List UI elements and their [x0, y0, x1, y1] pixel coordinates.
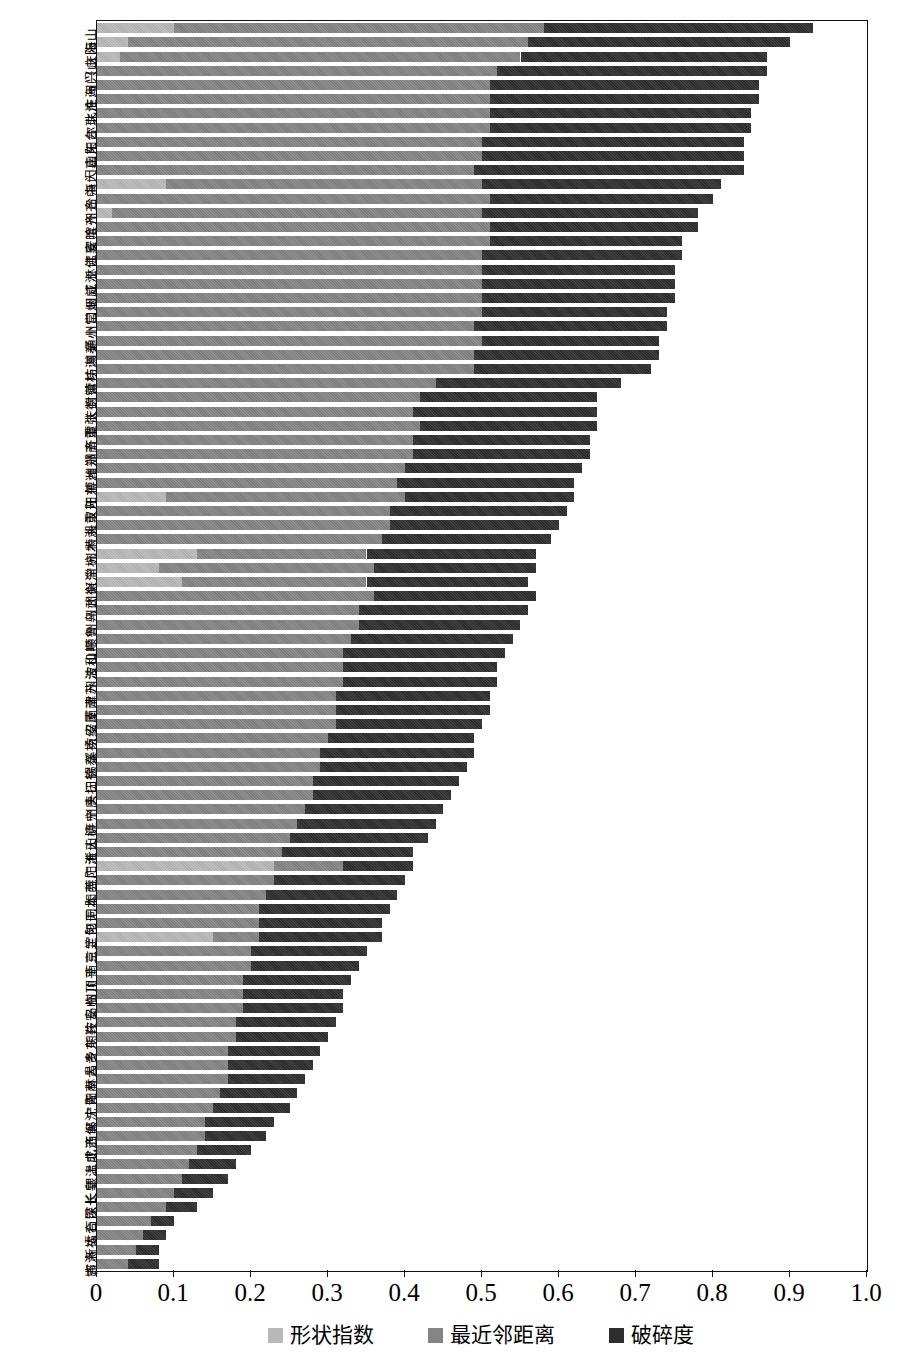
bar-segment-nnd: [97, 634, 351, 644]
bar-segment-frag: [313, 790, 452, 800]
bar-row: [97, 66, 867, 76]
bar-row: [97, 890, 867, 900]
bar-segment-frag: [259, 904, 390, 914]
bar-row: [97, 733, 867, 743]
bar-segment-frag: [528, 37, 790, 47]
x-axis-tick-label: 0.1: [157, 1279, 188, 1307]
bar-row: [97, 677, 867, 687]
bar-segment-nnd: [97, 762, 320, 772]
bar-segment-nnd: [97, 1046, 228, 1056]
bar-segment-frag: [328, 733, 474, 743]
bar-row: [97, 776, 867, 786]
bar-segment-nnd: [97, 250, 482, 260]
bar-segment-frag: [243, 1003, 343, 1013]
x-axis-tick-label: 0.7: [619, 1279, 650, 1307]
legend-item[interactable]: 破碎度: [609, 1324, 694, 1346]
bar-row: [97, 1259, 867, 1269]
bar-row: [97, 1017, 867, 1027]
bar-row: [97, 648, 867, 658]
bar-segment-nnd: [97, 350, 474, 360]
bar-segment-nnd: [97, 1188, 174, 1198]
bar-row: [97, 165, 867, 175]
x-axis-tick-label: 0: [90, 1279, 103, 1307]
bar-segment-frag: [405, 463, 582, 473]
legend-item[interactable]: 最近邻距离: [428, 1324, 555, 1346]
bar-segment-frag: [490, 194, 713, 204]
bar-segment-nnd: [97, 137, 482, 147]
bar-segment-frag: [482, 179, 721, 189]
bar-row: [97, 137, 867, 147]
bar-segment-frag: [220, 1088, 297, 1098]
bar-segment-nnd: [97, 1245, 136, 1255]
bar-segment-nnd: [97, 890, 266, 900]
legend-item[interactable]: 形状指数: [268, 1324, 374, 1346]
x-axis-tick-label: 0.2: [234, 1279, 265, 1307]
bar-row: [97, 463, 867, 473]
bar-segment-nnd: [97, 605, 359, 615]
y-axis-labels: 海山庆阳兴山州门庄海北淮尔珠阳台山东门嘉海大台中州齐滨齐安哈江襄林佛江江州威口烟…: [0, 20, 96, 1270]
bar-segment-nnd: [97, 804, 305, 814]
bar-row: [97, 492, 867, 502]
bar-segment-shape: [97, 932, 213, 942]
bar-segment-nnd: [97, 918, 259, 928]
bar-segment-nnd: [97, 364, 474, 374]
bar-segment-nnd: [97, 1103, 213, 1113]
bar-segment-nnd: [97, 392, 420, 402]
bar-segment-nnd: [274, 861, 343, 871]
bar-segment-frag: [351, 634, 513, 644]
bar-row: [97, 748, 867, 758]
bar-row: [97, 336, 867, 346]
bar-segment-nnd: [97, 407, 413, 417]
bar-row: [97, 222, 867, 232]
bar-segment-frag: [390, 520, 559, 530]
bar-row: [97, 534, 867, 544]
bar-row: [97, 1046, 867, 1056]
bars-layer: [97, 21, 867, 1271]
bar-segment-nnd: [97, 506, 390, 516]
bar-segment-nnd: [97, 378, 436, 388]
bar-segment-frag: [189, 1159, 235, 1169]
bar-segment-nnd: [97, 790, 313, 800]
bar-row: [97, 932, 867, 942]
bar-row: [97, 620, 867, 630]
bar-row: [97, 108, 867, 118]
bar-row: [97, 1074, 867, 1084]
bar-segment-frag: [251, 946, 367, 956]
bar-row: [97, 1003, 867, 1013]
bar-segment-frag: [490, 222, 698, 232]
bar-segment-nnd: [97, 961, 251, 971]
bar-row: [97, 1216, 867, 1226]
bar-segment-nnd: [97, 336, 482, 346]
bar-segment-nnd: [97, 1159, 189, 1169]
x-axis-tick: [558, 1270, 559, 1277]
bar-row: [97, 691, 867, 701]
bar-row: [97, 719, 867, 729]
bar-segment-frag: [390, 506, 567, 516]
bar-segment-nnd: [97, 1216, 151, 1226]
bar-segment-frag: [166, 1202, 197, 1212]
bar-row: [97, 1202, 867, 1212]
x-axis-tick-label: 0.4: [388, 1279, 419, 1307]
bar-row: [97, 279, 867, 289]
bar-row: [97, 1174, 867, 1184]
bar-segment-frag: [367, 577, 529, 587]
bar-segment-frag: [228, 1046, 320, 1056]
bar-segment-nnd: [97, 123, 490, 133]
bar-segment-shape: [97, 208, 112, 218]
bar-segment-nnd: [97, 946, 251, 956]
bar-row: [97, 904, 867, 914]
bar-segment-frag: [336, 705, 490, 715]
bar-row: [97, 918, 867, 928]
bar-segment-frag: [482, 208, 698, 218]
bar-segment-frag: [413, 435, 590, 445]
bar-segment-frag: [420, 421, 597, 431]
bar-segment-frag: [474, 321, 667, 331]
x-axis-tick: [789, 1270, 790, 1277]
legend-item-label: 最近邻距离: [450, 1324, 555, 1346]
bar-segment-frag: [320, 748, 474, 758]
bar-segment-nnd: [97, 591, 374, 601]
bar-segment-nnd: [166, 179, 482, 189]
bar-segment-frag: [544, 23, 814, 33]
x-axis-tick-label: 0.6: [542, 1279, 573, 1307]
x-axis-tick: [481, 1270, 482, 1277]
